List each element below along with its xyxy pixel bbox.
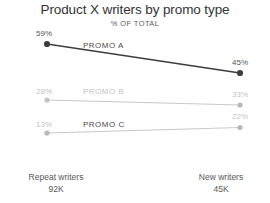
axis-group-right: New writers 45K [178, 171, 264, 195]
value-label-promo-b-left: 28% [36, 87, 52, 96]
axis-group-left: Repeat writers 92K [8, 171, 104, 195]
datapoint-promo-a-right[interactable] [237, 70, 243, 76]
slope-chart: Product X writers by promo type % OF TOT… [0, 0, 270, 203]
series-label-promo-a: PROMO A [83, 41, 124, 50]
datapoint-promo-c-left[interactable] [44, 130, 49, 135]
axis-label-right-name: New writers [178, 171, 264, 183]
axis-label-left-value: 92K [8, 183, 104, 195]
series-line-promo-b [47, 100, 240, 105]
axis-label-right-value: 45K [178, 183, 264, 195]
value-label-promo-b-right: 33% [232, 90, 248, 99]
value-label-promo-a-right: 45% [232, 58, 248, 67]
series-line-promo-a [47, 44, 240, 73]
datapoint-promo-b-left[interactable] [44, 97, 49, 102]
series-label-promo-b: PROMO B [83, 87, 124, 96]
datapoint-promo-a-left[interactable] [44, 41, 50, 47]
series-label-promo-c: PROMO C [83, 120, 125, 129]
axis-label-left-name: Repeat writers [8, 171, 104, 183]
value-label-promo-a-left: 59% [36, 29, 52, 38]
series-line-promo-c [47, 128, 240, 134]
datapoint-promo-c-right[interactable] [237, 125, 242, 130]
value-label-promo-c-right: 22% [232, 112, 248, 121]
datapoint-promo-b-right[interactable] [237, 102, 242, 107]
value-label-promo-c-left: 13% [36, 120, 52, 129]
